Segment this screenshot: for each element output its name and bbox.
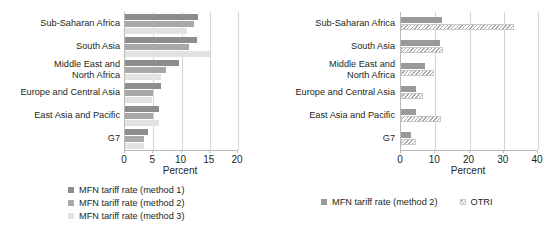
bar xyxy=(401,86,416,92)
axis-tick-label: 0 xyxy=(397,154,403,165)
category-label: Europe and Central Asia xyxy=(0,87,120,98)
bar xyxy=(401,40,440,46)
right-chart-panel: Sub-Saharan AfricaSouth AsiaMiddle East … xyxy=(273,0,547,231)
gridline xyxy=(538,12,539,150)
category-label: South Asia xyxy=(0,41,120,52)
category-label: East Asia and Pacific xyxy=(0,110,120,121)
bar-group xyxy=(125,104,237,127)
bar xyxy=(401,63,425,69)
gridline xyxy=(238,12,239,150)
legend-item[interactable]: MFN tariff rate (method 2) xyxy=(321,195,438,208)
bar-group xyxy=(401,81,537,104)
bar xyxy=(125,129,148,135)
category-label: East Asia and Pacific xyxy=(273,110,395,121)
axis-tick xyxy=(181,150,182,153)
left-chart-panel: Sub-Saharan AfricaSouth AsiaMiddle East … xyxy=(0,0,273,231)
right-chart-value-axis: 010203040 xyxy=(400,150,537,151)
bar xyxy=(401,17,442,23)
axis-tick xyxy=(434,150,435,153)
axis-tick-label: 30 xyxy=(497,154,508,165)
legend-label: MFN tariff rate (method 2) xyxy=(332,197,438,207)
axis-tick xyxy=(237,150,238,153)
bar-group xyxy=(401,12,537,35)
category-label: G7 xyxy=(273,133,395,144)
left-chart-value-axis: 05101520 xyxy=(124,150,237,151)
legend-item[interactable]: MFN tariff rate (method 3) xyxy=(68,209,248,222)
bar xyxy=(125,143,144,149)
category-label: Sub-Saharan Africa xyxy=(0,18,120,29)
legend-label: MFN tariff rate (method 2) xyxy=(79,198,185,208)
bar-group xyxy=(401,35,537,58)
legend-item[interactable]: MFN tariff rate (method 1) xyxy=(68,183,248,196)
category-label: South Asia xyxy=(273,41,395,52)
two-panel-bar-chart-figure: Sub-Saharan AfricaSouth AsiaMiddle East … xyxy=(0,0,547,231)
axis-tick xyxy=(152,150,153,153)
left-chart-axis-title: Percent xyxy=(124,165,236,176)
bar xyxy=(125,60,179,66)
bar xyxy=(125,14,198,20)
bar xyxy=(125,136,144,142)
bar xyxy=(125,120,159,126)
bar xyxy=(125,51,210,57)
bar xyxy=(125,106,159,112)
axis-tick-label: 0 xyxy=(121,154,127,165)
bar xyxy=(401,70,434,76)
right-chart-plot-area xyxy=(400,12,537,150)
bar xyxy=(125,83,161,89)
bar-group xyxy=(401,104,537,127)
axis-tick xyxy=(469,150,470,153)
bar xyxy=(401,93,423,99)
bar xyxy=(401,24,514,30)
axis-tick xyxy=(503,150,504,153)
bar xyxy=(401,47,443,53)
bar-group xyxy=(401,58,537,81)
legend-item[interactable]: OTRI xyxy=(460,195,493,208)
bar xyxy=(401,139,416,145)
bar xyxy=(125,90,153,96)
axis-tick xyxy=(209,150,210,153)
right-chart-legend: MFN tariff rate (method 2)OTRI xyxy=(321,195,541,208)
bar xyxy=(401,109,416,115)
axis-tick-label: 40 xyxy=(531,154,542,165)
bar xyxy=(125,67,166,73)
right-chart-category-axis: Sub-Saharan AfricaSouth AsiaMiddle East … xyxy=(273,0,395,150)
bar xyxy=(125,28,187,34)
category-label: Middle East and North Africa xyxy=(273,59,395,80)
bar xyxy=(125,74,161,80)
category-label: Middle East and North Africa xyxy=(0,59,120,80)
bar xyxy=(125,113,153,119)
legend-label: OTRI xyxy=(471,197,493,207)
legend-swatch-icon xyxy=(460,199,466,205)
category-label: Sub-Saharan Africa xyxy=(273,18,395,29)
axis-tick-label: 5 xyxy=(149,154,155,165)
bar-group xyxy=(125,12,237,35)
bar-group xyxy=(125,35,237,58)
axis-tick-label: 20 xyxy=(231,154,242,165)
bar-group xyxy=(125,58,237,81)
bar xyxy=(401,116,441,122)
axis-tick-label: 10 xyxy=(429,154,440,165)
bar-group xyxy=(401,127,537,150)
left-chart-plot-area xyxy=(124,12,237,150)
bar xyxy=(125,21,194,27)
axis-tick xyxy=(124,150,125,153)
bar-group xyxy=(125,127,237,150)
right-chart-axis-title: Percent xyxy=(400,165,536,176)
legend-swatch-icon xyxy=(68,200,74,206)
legend-label: MFN tariff rate (method 3) xyxy=(79,211,185,221)
bar xyxy=(125,37,197,43)
category-label: Europe and Central Asia xyxy=(273,87,395,98)
bar xyxy=(401,132,411,138)
axis-tick-label: 10 xyxy=(175,154,186,165)
bar xyxy=(125,44,189,50)
bar-group xyxy=(125,81,237,104)
legend-label: MFN tariff rate (method 1) xyxy=(79,185,185,195)
axis-tick-label: 20 xyxy=(463,154,474,165)
legend-swatch-icon xyxy=(68,213,74,219)
left-chart-category-axis: Sub-Saharan AfricaSouth AsiaMiddle East … xyxy=(0,0,120,150)
legend-item[interactable]: MFN tariff rate (method 2) xyxy=(68,196,248,209)
category-label: G7 xyxy=(0,133,120,144)
axis-tick-label: 15 xyxy=(203,154,214,165)
bar xyxy=(125,97,152,103)
axis-tick xyxy=(400,150,401,153)
